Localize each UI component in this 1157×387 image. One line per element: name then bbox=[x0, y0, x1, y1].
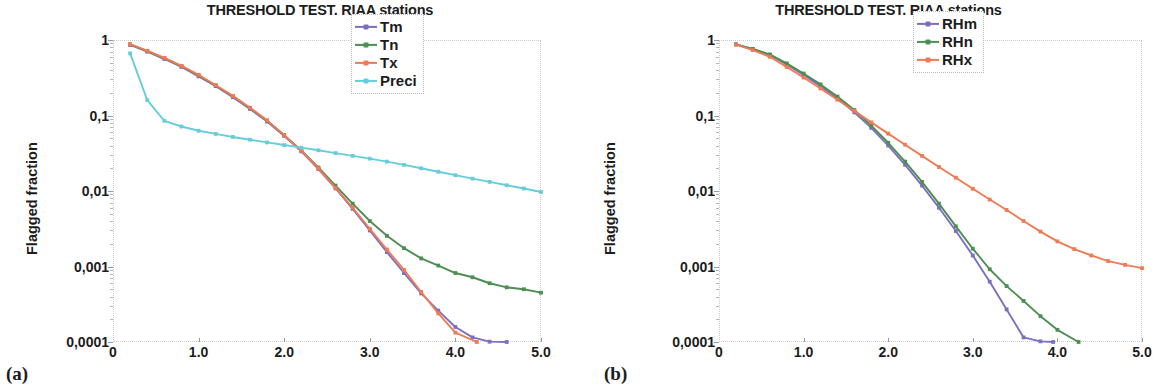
series-marker-Tx bbox=[402, 268, 406, 272]
series-marker-Tn bbox=[436, 264, 440, 268]
series-marker-Tx bbox=[351, 206, 355, 210]
y-minor-tick bbox=[110, 43, 113, 44]
y-minor-tick bbox=[716, 57, 719, 58]
series-marker-Preci bbox=[488, 180, 492, 184]
legend-item-Tx[interactable]: Tx bbox=[355, 54, 417, 72]
series-marker-Tm bbox=[454, 325, 458, 329]
y-tick-label: 1 bbox=[657, 32, 715, 48]
legend-item-RHx[interactable]: RHx bbox=[917, 51, 977, 69]
y-minor-tick bbox=[110, 57, 113, 58]
y-minor-tick bbox=[716, 283, 719, 284]
series-marker-Preci bbox=[522, 187, 526, 191]
y-minor-tick bbox=[716, 278, 719, 279]
y-tick-label: 1 bbox=[51, 32, 109, 48]
legend-item-Tm[interactable]: Tm bbox=[355, 18, 417, 36]
legend-label: RHm bbox=[942, 15, 977, 33]
y-minor-tick bbox=[110, 52, 113, 53]
series-marker-Tx bbox=[214, 83, 218, 87]
series-marker-Preci bbox=[299, 146, 303, 150]
series-marker-Preci bbox=[180, 125, 184, 129]
series-marker-RHm bbox=[1022, 336, 1026, 340]
y-minor-tick bbox=[110, 230, 113, 231]
x-tick-label: 4.0 bbox=[1048, 344, 1067, 360]
y-minor-tick bbox=[110, 123, 113, 124]
series-marker-Tx bbox=[334, 186, 338, 190]
figure-root: THRESHOLD TEST. RIAA stations Flagged fr… bbox=[0, 0, 1157, 387]
y-tick-mark bbox=[108, 267, 113, 268]
series-marker-Preci bbox=[539, 190, 543, 194]
y-tick-mark bbox=[108, 342, 113, 343]
x-tick-label: 2.0 bbox=[274, 344, 293, 360]
series-marker-Tn bbox=[522, 287, 526, 291]
y-minor-tick bbox=[110, 146, 113, 147]
x-tick-mark bbox=[541, 338, 542, 342]
y-tick-label: 0,001 bbox=[51, 259, 109, 275]
series-marker-Preci bbox=[248, 138, 252, 142]
legend-item-RHm[interactable]: RHm bbox=[917, 15, 977, 33]
y-minor-tick bbox=[110, 283, 113, 284]
x-tick-label: 0 bbox=[109, 344, 117, 360]
legend-swatch-icon bbox=[355, 75, 377, 87]
series-marker-RHx bbox=[1039, 230, 1043, 234]
series-marker-Tm bbox=[505, 340, 509, 344]
series-marker-RHx bbox=[836, 98, 840, 102]
series-marker-Preci bbox=[214, 132, 218, 136]
series-marker-RHm bbox=[988, 280, 992, 284]
series-marker-RHx bbox=[920, 154, 924, 158]
y-tick-label: 0,1 bbox=[657, 108, 715, 124]
y-minor-tick bbox=[716, 132, 719, 133]
y-minor-tick bbox=[716, 297, 719, 298]
y-tick-mark bbox=[714, 191, 719, 192]
chart-title: THRESHOLD TEST. RIAA stations bbox=[0, 2, 610, 18]
y-minor-tick bbox=[716, 43, 719, 44]
series-marker-RHn bbox=[1022, 299, 1026, 303]
x-tick-mark bbox=[370, 338, 371, 342]
y-minor-tick bbox=[716, 52, 719, 53]
series-marker-Tn bbox=[368, 219, 372, 223]
series-marker-RHx bbox=[768, 55, 772, 59]
series-marker-Tm bbox=[488, 340, 492, 344]
legend-item-RHn[interactable]: RHn bbox=[917, 33, 977, 51]
series-marker-RHm bbox=[1005, 308, 1009, 312]
y-minor-tick bbox=[716, 138, 719, 139]
x-tick-mark bbox=[1142, 338, 1143, 342]
series-marker-Tn bbox=[402, 246, 406, 250]
y-minor-tick bbox=[110, 138, 113, 139]
series-marker-Tn bbox=[454, 271, 458, 275]
legend-swatch-icon bbox=[917, 36, 939, 48]
chart-title: THRESHOLD TEST. RIAA stations bbox=[580, 2, 1157, 18]
y-minor-tick bbox=[110, 194, 113, 195]
series-marker-RHn bbox=[819, 83, 823, 87]
series-marker-Preci bbox=[197, 129, 201, 133]
series-marker-RHn bbox=[1039, 314, 1043, 318]
series-marker-Preci bbox=[368, 157, 372, 161]
y-minor-tick bbox=[110, 274, 113, 275]
series-marker-Preci bbox=[385, 160, 389, 164]
y-minor-tick bbox=[110, 208, 113, 209]
series-line-RHx bbox=[736, 45, 1142, 269]
series-marker-Tx bbox=[248, 106, 252, 110]
series-marker-RHm bbox=[971, 254, 975, 258]
y-axis-label: Flagged fraction bbox=[602, 142, 618, 255]
y-minor-tick bbox=[110, 270, 113, 271]
chart-panel-a: THRESHOLD TEST. RIAA stations Flagged fr… bbox=[0, 0, 580, 387]
legend-item-Tn[interactable]: Tn bbox=[355, 36, 417, 54]
series-marker-RHx bbox=[802, 76, 806, 80]
y-tick-label: 0,01 bbox=[51, 183, 109, 199]
series-marker-Tx bbox=[419, 290, 423, 294]
y-minor-tick bbox=[110, 47, 113, 48]
series-marker-Preci bbox=[282, 143, 286, 147]
y-minor-tick bbox=[110, 297, 113, 298]
y-minor-tick bbox=[110, 278, 113, 279]
legend-swatch-icon bbox=[355, 57, 377, 69]
series-marker-RHm bbox=[1039, 339, 1043, 343]
legend-item-Preci[interactable]: Preci bbox=[355, 72, 417, 90]
y-minor-tick bbox=[110, 119, 113, 120]
series-line-Tx bbox=[130, 44, 477, 342]
series-line-RHm bbox=[736, 44, 1053, 342]
x-tick-mark bbox=[888, 338, 889, 342]
series-marker-Tx bbox=[282, 134, 286, 138]
series-marker-RHn bbox=[988, 267, 992, 271]
y-tick-mark bbox=[108, 191, 113, 192]
y-minor-tick bbox=[716, 127, 719, 128]
